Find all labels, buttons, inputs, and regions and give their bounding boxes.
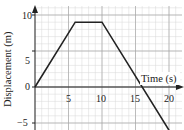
x-tick-10: 10 [96,93,106,104]
axes [32,5,184,130]
y-tick-neg5: −5 [17,117,28,128]
minor-grid [35,6,182,130]
y-tick-5: 5 [25,55,30,66]
x-tick-5: 5 [66,93,71,104]
y-axis-label: Displacement (m) [2,31,14,107]
displacement-time-chart: 10 5 0 −5 5 10 15 20 Time (s) Displaceme… [0,0,184,130]
y-axis-arrow-icon [32,5,38,13]
x-tick-15: 15 [130,93,140,104]
y-tick-0: 0 [25,81,30,92]
x-tick-20: 20 [164,93,174,104]
y-tick-10: 10 [22,10,32,21]
x-axis-label: Time (s) [141,73,177,85]
